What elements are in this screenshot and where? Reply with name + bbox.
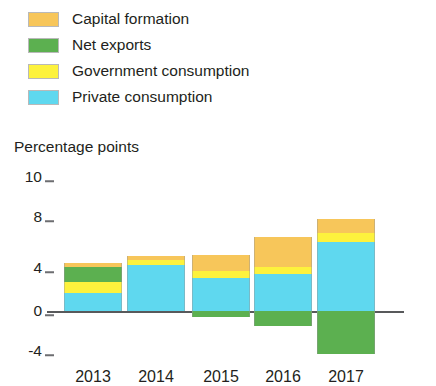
y-tick-label-0: 0 (8, 302, 42, 320)
bar-segment-2015-private-consumption (192, 278, 250, 311)
bar-segment-2013-capital-formation (64, 263, 122, 267)
bar-segment-2016-private-consumption (254, 274, 312, 311)
bar-2014[interactable] (127, 0, 185, 379)
bar-2013[interactable] (64, 0, 122, 379)
bar-2017[interactable] (317, 0, 375, 379)
bar-segment-2017-net-exports (317, 311, 375, 354)
bar-segment-2014-private-consumption (127, 265, 185, 311)
bar-segment-2013-private-consumption (64, 293, 122, 311)
bar-segment-2016-government-consumption (254, 267, 312, 274)
x-tick-label-2015: 2015 (203, 368, 239, 386)
bar-segment-2016-capital-formation (254, 237, 312, 267)
bar-segment-2013-net-exports (64, 267, 122, 282)
bar-segment-2015-government-consumption (192, 271, 250, 278)
bar-2016[interactable] (254, 0, 312, 379)
y-tick-mark-0 (45, 314, 54, 316)
bar-segment-2014-government-consumption (127, 260, 185, 264)
bar-segment-2013-government-consumption (64, 282, 122, 293)
y-tick-label-8: 8 (8, 208, 42, 226)
x-tick-label-2014: 2014 (138, 368, 174, 386)
y-tick-label-neg4: -4 (8, 342, 42, 360)
y-tick-mark-neg4 (45, 354, 54, 356)
bar-segment-2014-capital-formation (127, 256, 185, 260)
bar-segment-2017-capital-formation (317, 219, 375, 233)
bar-segment-2016-net-exports (254, 311, 312, 326)
y-tick-mark-4 (45, 271, 54, 273)
y-tick-label-10: 10 (8, 168, 42, 186)
bar-segment-2017-government-consumption (317, 233, 375, 242)
bar-2015[interactable] (192, 0, 250, 379)
bar-segment-2017-private-consumption (317, 242, 375, 311)
x-tick-label-2017: 2017 (328, 368, 364, 386)
y-tick-mark-8 (45, 220, 54, 222)
y-tick-label-4: 4 (8, 259, 42, 277)
bar-segment-2015-capital-formation (192, 255, 250, 272)
x-tick-label-2013: 2013 (75, 368, 111, 386)
zero-baseline (47, 311, 404, 313)
y-tick-mark-10 (45, 180, 54, 182)
x-tick-label-2016: 2016 (265, 368, 301, 386)
